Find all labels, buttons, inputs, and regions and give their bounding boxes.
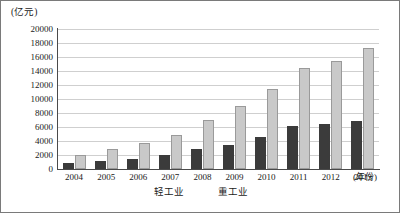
x-axis-tick-label: 2009 — [218, 172, 250, 183]
bar-light-industry — [127, 159, 138, 170]
x-axis-tick-label: 2012 — [315, 172, 347, 183]
bar-heavy-industry — [235, 106, 246, 169]
bar-light-industry — [159, 155, 170, 169]
bar-heavy-industry — [107, 149, 118, 169]
x-axis-tick-label: 2010 — [251, 172, 283, 183]
bar-group — [58, 29, 90, 169]
y-axis-tick-label: 6000 — [7, 123, 53, 132]
x-axis-tick-label: 2006 — [122, 172, 154, 183]
x-axis-tick-label: 2008 — [186, 172, 218, 183]
y-axis-tick-label: 2000 — [7, 151, 53, 160]
x-axis-tick-label: 2011 — [283, 172, 315, 183]
bar-heavy-industry — [299, 68, 310, 169]
bar-light-industry — [63, 163, 74, 169]
bar-heavy-industry — [75, 155, 86, 169]
x-axis-line — [57, 169, 380, 170]
bar-groups — [58, 29, 379, 169]
bar-group — [186, 29, 218, 169]
bar-group — [90, 29, 122, 169]
bar-light-industry — [255, 137, 266, 169]
legend-item-heavy-industry: 重工业 — [218, 187, 248, 198]
y-axis-tick-label: 12000 — [7, 81, 53, 90]
bar-group — [347, 29, 379, 169]
x-axis-tick-labels: 2004200520062007200820092010201120122013 — [58, 172, 379, 183]
x-axis-tick-label: 2004 — [58, 172, 90, 183]
bar-light-industry — [287, 126, 298, 169]
x-axis-tick-label: 2007 — [154, 172, 186, 183]
y-axis-tick-label: 10000 — [7, 95, 53, 104]
bar-light-industry — [191, 149, 202, 169]
bar-group — [122, 29, 154, 169]
y-axis-tick-label: 8000 — [7, 109, 53, 118]
bar-light-industry — [223, 145, 234, 170]
y-axis-tick-label: 4000 — [7, 137, 53, 146]
bar-light-industry — [95, 161, 106, 169]
y-axis-tick-label: 20000 — [7, 25, 53, 34]
bar-heavy-industry — [203, 120, 214, 169]
bar-chart-figure: (亿元) 20000180001600014000120001000080006… — [0, 0, 400, 213]
bar-group — [154, 29, 186, 169]
y-axis-tick-label: 0 — [7, 165, 53, 174]
bar-group — [251, 29, 283, 169]
bar-heavy-industry — [363, 48, 374, 169]
y-axis-tick-label: 18000 — [7, 39, 53, 48]
bar-heavy-industry — [331, 61, 342, 169]
bar-heavy-industry — [171, 135, 182, 169]
bar-group — [218, 29, 250, 169]
y-axis-unit-label: (亿元) — [11, 7, 37, 18]
bar-group — [315, 29, 347, 169]
x-axis-title: (年份) — [353, 172, 377, 183]
legend-item-light-industry: 轻工业 — [154, 187, 184, 198]
y-axis-tick-labels: 2000018000160001400012000100008000600040… — [5, 29, 53, 169]
bar-light-industry — [319, 124, 330, 169]
y-axis-tick-label: 14000 — [7, 67, 53, 76]
bar-heavy-industry — [139, 143, 150, 169]
bar-group — [283, 29, 315, 169]
bar-light-industry — [351, 121, 362, 169]
bar-heavy-industry — [267, 89, 278, 169]
y-axis-tick-label: 16000 — [7, 53, 53, 62]
chart-legend: 轻工业重工业 — [1, 187, 400, 198]
x-axis-tick-label: 2005 — [90, 172, 122, 183]
